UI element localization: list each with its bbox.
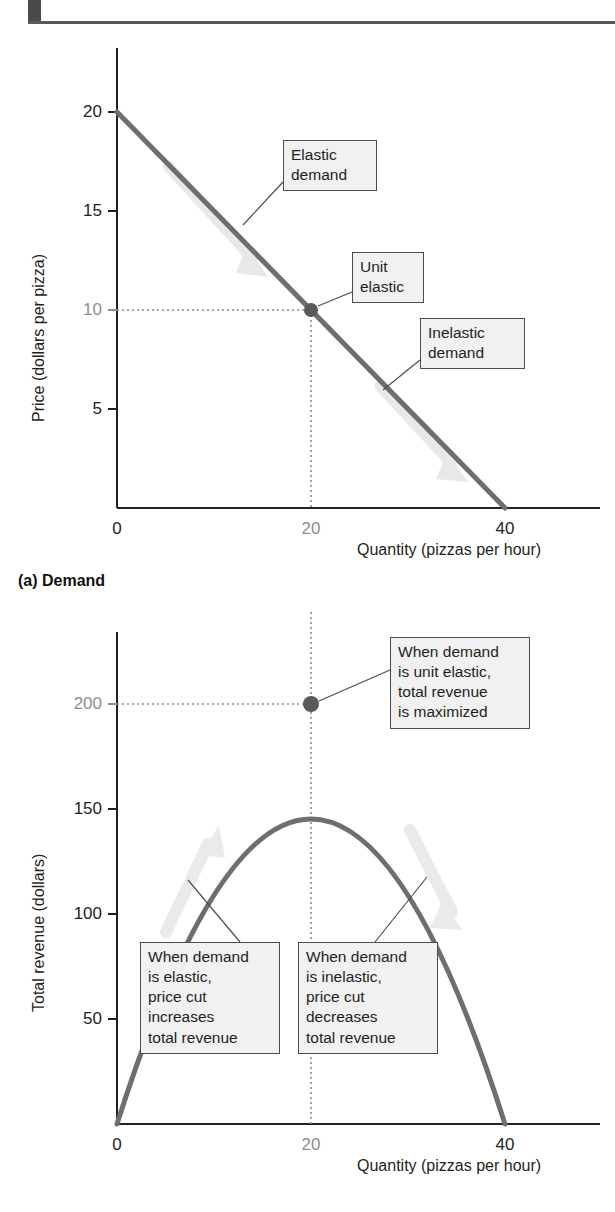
revenue-x-axis-title: Quantity (pizzas per hour)	[357, 1157, 541, 1175]
revenue-rising-arrow	[166, 826, 225, 932]
elastic-callout-leader	[243, 182, 283, 225]
demand-ytick-label-15: 15	[58, 201, 102, 221]
max-revenue-callout-leader	[319, 670, 390, 701]
unit-elastic-point-marker	[304, 303, 318, 317]
revenue-ytick-label-150: 150	[42, 799, 102, 819]
header-divider-rule	[28, 21, 615, 24]
unit-elastic-callout: Unit elastic	[352, 252, 424, 303]
inelastic-price-cut-callout: When demand is inelastic, price cut decr…	[298, 942, 438, 1054]
revenue-ytick-label-200: 200	[42, 694, 102, 714]
chapter-tab-marker	[28, 0, 41, 22]
demand-ytick-label-10: 10	[58, 300, 102, 320]
revenue-y-axis-title: Total revenue (dollars)	[30, 854, 48, 1012]
demand-xtick-label-40: 40	[485, 519, 525, 539]
total-revenue-chart-panel: Total revenue (dollars) 200 150 100 50 0…	[0, 612, 615, 1212]
demand-xtick-label-0: 0	[97, 519, 137, 539]
revenue-ytick-label-100: 100	[42, 904, 102, 924]
max-revenue-callout: When demand is unit elastic, total reven…	[390, 637, 530, 729]
revenue-xtick-label-20: 20	[291, 1135, 331, 1155]
elastic-demand-callout: Elastic demand	[283, 140, 377, 191]
demand-xtick-label-20: 20	[291, 519, 331, 539]
demand-chart-panel: Price (dollars per pizza) 20 15 10 5 0 2…	[0, 30, 615, 560]
panel-a-caption: (a) Demand	[18, 572, 105, 590]
demand-ytick-label-5: 5	[58, 399, 102, 419]
elastic-price-cut-callout: When demand is elastic, price cut increa…	[140, 942, 280, 1054]
inelastic-demand-callout: Inelastic demand	[420, 318, 525, 369]
revenue-xtick-label-0: 0	[97, 1135, 137, 1155]
demand-y-axis-title: Price (dollars per pizza)	[30, 254, 48, 422]
max-revenue-point-marker	[303, 696, 319, 712]
unit-elastic-callout-leader	[318, 292, 352, 306]
revenue-xtick-label-40: 40	[485, 1135, 525, 1155]
revenue-ytick-label-50: 50	[42, 1009, 102, 1029]
demand-ytick-label-20: 20	[58, 102, 102, 122]
demand-x-axis-title: Quantity (pizzas per hour)	[357, 541, 541, 559]
inelastic-callout-leader	[383, 360, 420, 390]
elastic-cut-callout-leader	[188, 880, 240, 942]
inelastic-direction-arrow	[380, 386, 468, 482]
page-header	[0, 0, 615, 30]
